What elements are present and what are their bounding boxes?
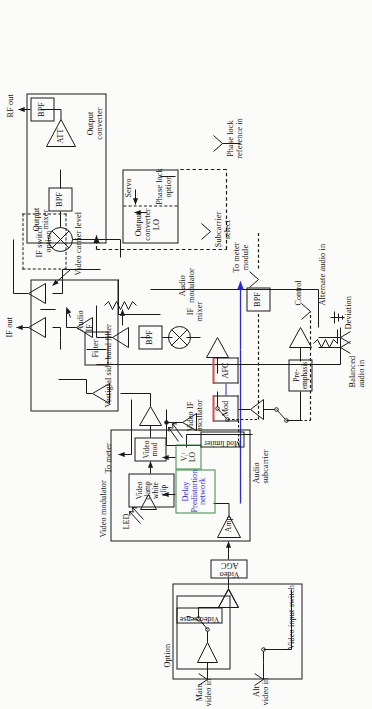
port-to-meter-module-label: To meter module (232, 235, 250, 279)
block-mod: Mod (212, 395, 238, 421)
block-bpf-audio-label: BPF (146, 326, 155, 348)
group-servo-label: Servo (124, 178, 132, 197)
block-pre-emphasis-label: Pre-emphasis (292, 360, 308, 390)
wire-mod-afc (225, 383, 226, 395)
port-alternate-audio-in-label: Alternate audio in (318, 243, 327, 305)
block-mod-limiter: Mod limiter (200, 431, 244, 447)
block-diagram: Video input switch Option Main video in … (0, 0, 372, 709)
block-bpf-output-2-label: BPF (38, 98, 47, 120)
port-balanced-audio-in-label: Balanced audio in (348, 355, 366, 387)
block-pre-emphasis: Pre-emphasis (288, 359, 312, 391)
group-if-mixer-label: IF mixer (186, 297, 204, 325)
block-bpf-subcarrier-label: BPF (254, 288, 263, 310)
port-phase-lock-reference-in-label: Phase lock reference in (226, 111, 244, 165)
port-control-label: Control (294, 280, 302, 305)
block-bpf-subcarrier: BPF (246, 287, 270, 311)
port-rf-out-label: RF out (6, 94, 15, 117)
block-bpf-output-1: BPF (48, 187, 72, 211)
port-deviation-label: Deviation (344, 295, 353, 329)
port-audio-if-label: Audio IF (76, 310, 94, 331)
block-att-label: ATT (56, 128, 64, 143)
block-mod-limiter-label: Mod limiter (204, 432, 241, 446)
block-bpf-output-1-label: BPF (56, 188, 65, 210)
block-mod-label: Mod (221, 396, 230, 420)
block-bpf-output-2: BPF (30, 97, 54, 121)
block-afc-label: AFC (221, 358, 230, 382)
block-afc: AFC (212, 357, 238, 383)
figure-canvas: Video input switch Option Main video in … (0, 0, 372, 709)
port-subcarrier-select-label: Subcarrier select (214, 205, 232, 253)
block-bpf-audio: BPF (138, 325, 162, 349)
group-phase-lock-option-label: Phase lock option (155, 167, 173, 205)
group-output-converter-lo-label: Output converter LO (134, 205, 160, 243)
